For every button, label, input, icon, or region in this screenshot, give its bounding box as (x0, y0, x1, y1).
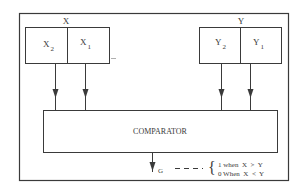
register-y: Y Y2 Y1 (200, 16, 282, 64)
output-condition-0: 0 When X < Y (218, 170, 264, 178)
comparator-label: COMPARATOR (133, 127, 187, 136)
register-x: X X2 X1 (26, 16, 117, 64)
output-label: G (158, 167, 163, 175)
output-condition-1: 1 when X > Y (218, 161, 263, 169)
register-x-label: X (63, 16, 70, 26)
svg-text:Y2: Y2 (215, 37, 227, 51)
cell-x1-subscript: 1 (88, 43, 92, 51)
cell-y1-subscript: 1 (261, 43, 265, 51)
register-y-label: Y (238, 16, 245, 26)
cell-y2-subscript: 2 (223, 43, 227, 51)
cell-y2: Y2 (215, 37, 227, 51)
arrowhead-x2-icon (53, 89, 59, 98)
comparator-diagram: X X2 X1 Y Y2 Y1 (0, 0, 302, 194)
arrowhead-y2-icon (219, 89, 225, 98)
cell-y1-letter: Y (253, 37, 260, 47)
cell-x1: X1 (80, 37, 92, 51)
svg-text:X2: X2 (43, 39, 55, 53)
cell-x1-letter: X (80, 37, 87, 47)
output-arrowhead-icon (150, 162, 156, 171)
comparator-block: COMPARATOR (44, 111, 278, 153)
svg-text:Y1: Y1 (253, 37, 265, 51)
brace-icon: { (208, 159, 216, 176)
svg-text:X1: X1 (80, 37, 92, 51)
cell-y1: Y1 (253, 37, 265, 51)
cell-y2-letter: Y (215, 37, 222, 47)
arrowhead-y1-icon (248, 89, 254, 98)
input-arrows (53, 64, 254, 111)
arrowhead-x1-icon (83, 89, 89, 98)
cell-x2-subscript: 2 (51, 45, 55, 53)
cell-x2: X2 (43, 39, 55, 53)
cell-x2-letter: X (43, 39, 50, 49)
outer-frame (20, 14, 289, 181)
output-g: G { 1 when X > Y 0 When X < Y (150, 153, 265, 179)
